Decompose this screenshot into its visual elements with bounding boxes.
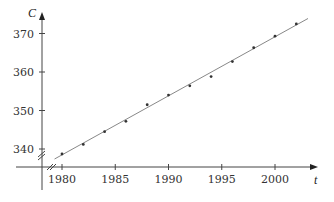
y-tick-label: 340 bbox=[13, 143, 34, 156]
data-point bbox=[82, 143, 85, 146]
data-point bbox=[125, 120, 128, 123]
plot-area: C t 340350360370 19801985199019952000 bbox=[0, 0, 334, 202]
x-tick-label: 1990 bbox=[155, 173, 183, 186]
data-point bbox=[231, 60, 234, 63]
data-point bbox=[274, 35, 277, 38]
data-point bbox=[188, 84, 191, 87]
data-point bbox=[103, 130, 106, 133]
chart: C t 340350360370 19801985199019952000 bbox=[0, 0, 334, 202]
data-point bbox=[167, 94, 170, 97]
x-tick-label: 1980 bbox=[48, 173, 76, 186]
x-tick-label: 1985 bbox=[101, 173, 129, 186]
y-tick-label: 370 bbox=[13, 28, 34, 41]
y-axis-arrow-icon bbox=[39, 12, 45, 20]
x-axis-label: t bbox=[314, 173, 318, 187]
y-tick-label: 360 bbox=[13, 66, 34, 79]
x-tick-label: 2000 bbox=[261, 173, 289, 186]
data-point bbox=[61, 153, 64, 156]
data-point bbox=[295, 22, 298, 25]
x-axis-arrow-icon bbox=[310, 164, 318, 170]
y-ticks: 340350360370 bbox=[13, 28, 45, 157]
trend-line bbox=[55, 18, 308, 159]
x-tick-label: 1995 bbox=[208, 173, 236, 186]
y-tick-label: 350 bbox=[13, 105, 34, 118]
data-point bbox=[146, 103, 149, 106]
y-axis-label: C bbox=[28, 6, 37, 20]
data-point bbox=[210, 75, 213, 78]
data-point bbox=[252, 46, 255, 49]
